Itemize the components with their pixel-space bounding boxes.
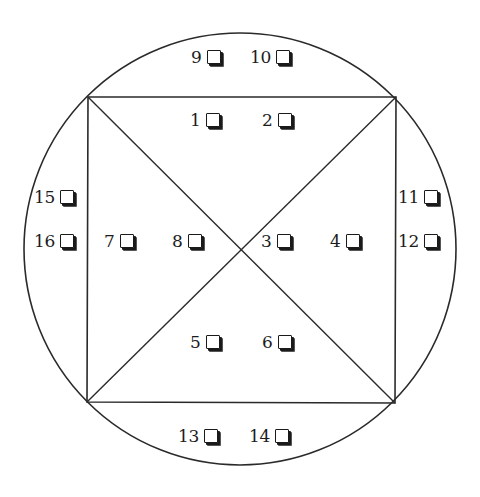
- checkbox-square-icon[interactable]: [188, 234, 202, 248]
- checkbox-label: 16: [34, 230, 55, 252]
- checkbox-option-6[interactable]: 6: [262, 331, 292, 353]
- checkbox-square-icon[interactable]: [346, 234, 360, 248]
- checkbox-square-icon[interactable]: [424, 190, 438, 204]
- checkbox-option-13[interactable]: 13: [178, 425, 218, 447]
- checkbox-square-icon[interactable]: [206, 335, 220, 349]
- checkbox-label: 11: [398, 186, 419, 208]
- checkbox-square-icon[interactable]: [424, 234, 438, 248]
- checkbox-square-icon[interactable]: [277, 234, 291, 248]
- checkbox-option-14[interactable]: 14: [249, 425, 289, 447]
- checkbox-option-4[interactable]: 4: [330, 230, 360, 252]
- checkbox-label: 13: [178, 425, 199, 447]
- checkbox-square-icon[interactable]: [204, 429, 218, 443]
- checkbox-label: 15: [34, 186, 55, 208]
- checkbox-option-12[interactable]: 12: [398, 230, 438, 252]
- checkbox-square-icon[interactable]: [60, 234, 74, 248]
- checkbox-label: 6: [262, 331, 273, 353]
- checkbox-label: 14: [249, 425, 270, 447]
- checkbox-option-7[interactable]: 7: [104, 230, 134, 252]
- checkbox-label: 12: [398, 230, 419, 252]
- checkbox-label: 8: [172, 230, 183, 252]
- checkbox-square-icon[interactable]: [278, 335, 292, 349]
- checkbox-label: 2: [262, 109, 273, 131]
- checkbox-option-8[interactable]: 8: [172, 230, 202, 252]
- checkbox-square-icon[interactable]: [120, 234, 134, 248]
- checkbox-option-15[interactable]: 15: [34, 186, 74, 208]
- checkbox-label: 1: [190, 109, 201, 131]
- checkbox-square-icon[interactable]: [207, 50, 221, 64]
- checkbox-option-5[interactable]: 5: [190, 331, 220, 353]
- checkbox-square-icon[interactable]: [60, 190, 74, 204]
- checkbox-square-icon[interactable]: [276, 50, 290, 64]
- checkbox-option-1[interactable]: 1: [190, 109, 220, 131]
- checkbox-square-icon[interactable]: [206, 113, 220, 127]
- checkbox-option-3[interactable]: 3: [261, 230, 291, 252]
- checkbox-label: 5: [190, 331, 201, 353]
- checkbox-label: 10: [250, 46, 271, 68]
- checkbox-option-9[interactable]: 9: [191, 46, 221, 68]
- checkbox-label: 7: [104, 230, 115, 252]
- checkbox-option-10[interactable]: 10: [250, 46, 290, 68]
- checkbox-square-icon[interactable]: [278, 113, 292, 127]
- checkbox-option-16[interactable]: 16: [34, 230, 74, 252]
- checkbox-square-icon[interactable]: [275, 429, 289, 443]
- checkbox-label: 4: [330, 230, 341, 252]
- diagram-canvas: 12345678910111213141516: [0, 0, 480, 497]
- checkbox-option-11[interactable]: 11: [398, 186, 438, 208]
- checkbox-label: 3: [261, 230, 272, 252]
- checkbox-option-2[interactable]: 2: [262, 109, 292, 131]
- checkbox-label: 9: [191, 46, 202, 68]
